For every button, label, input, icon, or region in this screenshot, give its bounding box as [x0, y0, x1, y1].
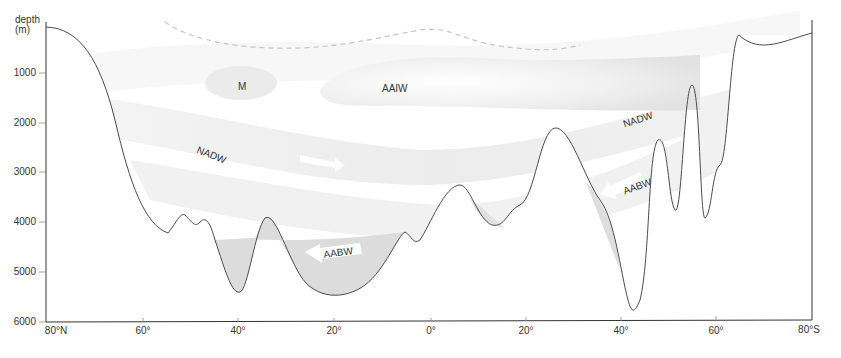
- y-axis-title-line2: (m): [15, 25, 30, 35]
- x-tick-label: 60°: [708, 326, 723, 336]
- label-m: M: [238, 82, 246, 92]
- x-axis: [46, 320, 812, 322]
- x-tick-label: 20°: [326, 326, 341, 336]
- y-ticks: [39, 73, 46, 322]
- water-bands: [60, 10, 800, 240]
- y-tick-label: 2000: [0, 118, 36, 128]
- label-aaiw: AAIW: [382, 84, 408, 94]
- x-tick-label: 80°N: [45, 326, 67, 336]
- y-tick-label: 6000: [0, 317, 36, 327]
- x-tick-label: 40°: [613, 326, 628, 336]
- y-tick-label: 1000: [0, 68, 36, 78]
- y-tick-label: 5000: [0, 267, 36, 277]
- x-tick-label: 40°: [230, 326, 245, 336]
- ocean-cross-section-diagram: [0, 0, 841, 358]
- y-tick-label: 3000: [0, 167, 36, 177]
- x-tick-label: 0°: [426, 326, 436, 336]
- y-tick-label: 4000: [0, 217, 36, 227]
- x-tick-label: 80°S: [798, 325, 820, 335]
- x-tick-label: 60°: [135, 326, 150, 336]
- x-tick-label: 20°: [518, 326, 533, 336]
- aaiw-water-mass: [320, 55, 700, 111]
